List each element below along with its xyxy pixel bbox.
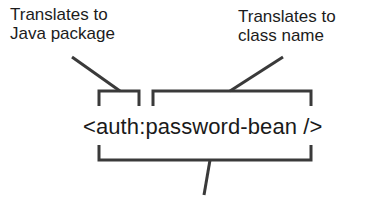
bracket-connectors [0,0,366,205]
prefix-pointer-line [72,57,120,91]
whole-tag-pointer-line [204,160,210,195]
prefix-bracket [99,91,139,106]
name-bracket [153,91,311,106]
name-pointer-line [230,57,283,91]
whole-tag-bracket [99,145,311,160]
xml-tag-example: <auth:password-bean /> [83,114,322,140]
